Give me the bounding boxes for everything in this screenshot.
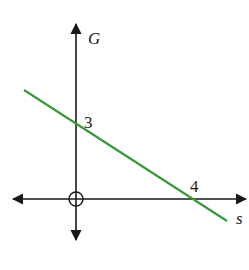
x-intercept-label: 4 <box>190 177 199 196</box>
y-axis-label: G <box>88 29 100 48</box>
graph: G s 3 4 <box>0 0 249 270</box>
x-axis-label: s <box>236 209 243 228</box>
data-line <box>24 90 227 221</box>
y-intercept-label: 3 <box>84 113 93 132</box>
